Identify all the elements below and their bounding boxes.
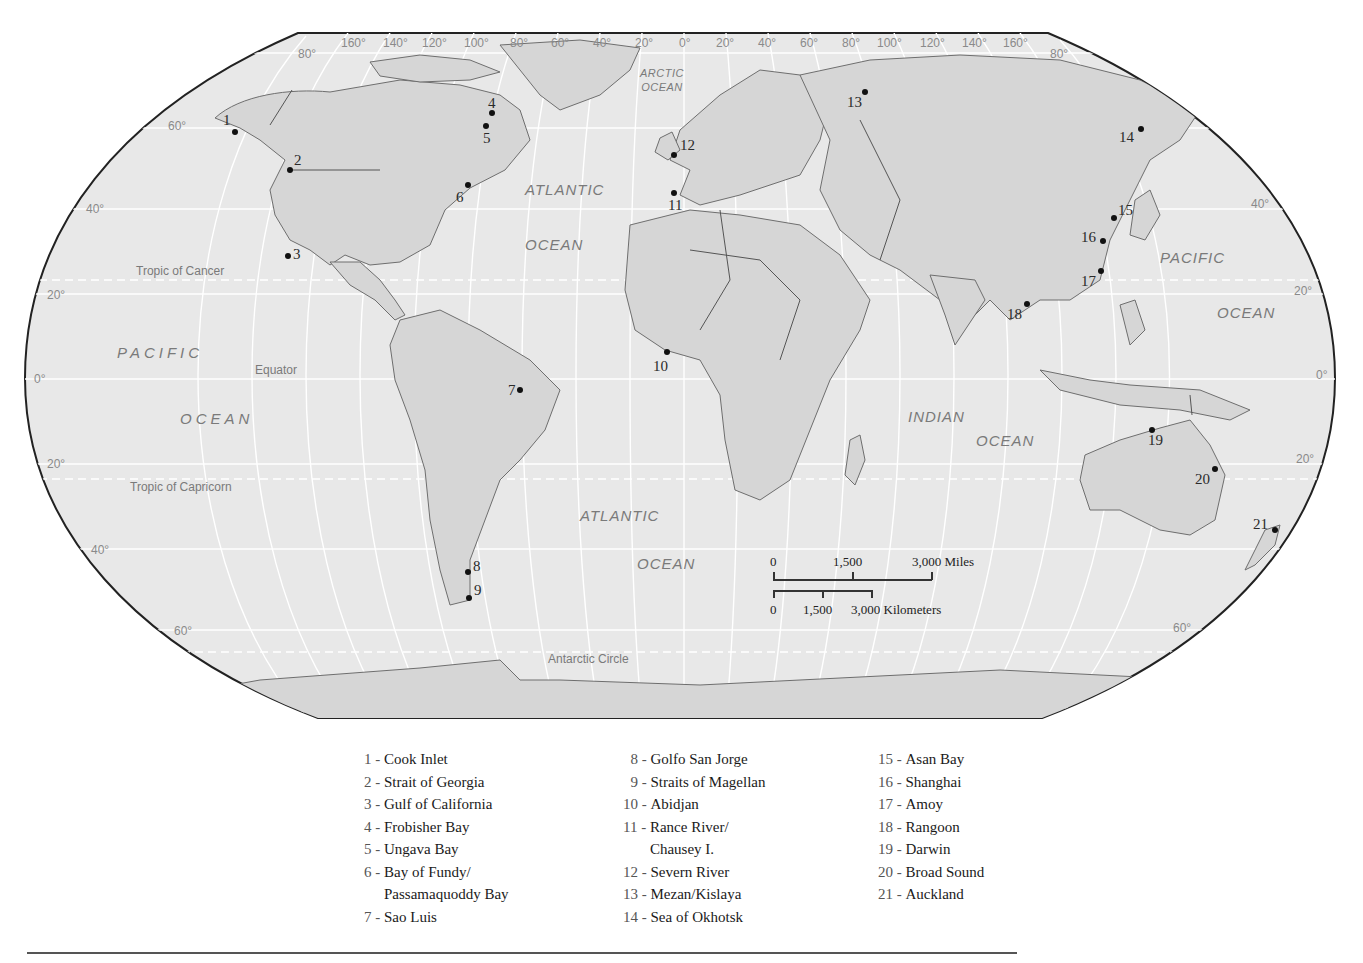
- legend-label: Severn River: [651, 861, 730, 884]
- marker-dot-15: [1111, 215, 1117, 221]
- lon-label: 140°: [383, 36, 408, 50]
- marker-dot-11: [671, 190, 677, 196]
- lon-label: 120°: [422, 36, 447, 50]
- map-graphic: [0, 0, 1363, 740]
- marker-label-2: 2: [294, 152, 302, 169]
- indian-ocean-label-2: OCEAN: [976, 432, 1034, 449]
- lat-label: 40°: [91, 543, 109, 557]
- marker-label-11: 11: [668, 197, 682, 214]
- legend-item: 5 - Ungava Bay: [364, 838, 509, 861]
- legend-number: 6 -: [364, 861, 384, 884]
- marker-label-6: 6: [456, 189, 464, 206]
- legend-label: Sea of Okhotsk: [651, 906, 744, 929]
- legend-item: 9 - Straits of Magellan: [623, 771, 765, 794]
- scale-tick: [822, 590, 824, 598]
- marker-label-19: 19: [1148, 432, 1163, 449]
- marker-label-10: 10: [653, 358, 668, 375]
- legend-number: 2 -: [364, 771, 384, 794]
- marker-label-13: 13: [847, 94, 862, 111]
- scale-km-1500: 1,500: [803, 602, 832, 618]
- legend-label: Bay of Fundy/: [384, 861, 471, 884]
- legend-label: Sao Luis: [384, 906, 437, 929]
- legend-item: 19 - Darwin: [878, 838, 984, 861]
- legend-number: 8 -: [623, 748, 651, 771]
- legend-number: 17 -: [878, 793, 906, 816]
- atlantic-ocean-south-label-2: OCEAN: [637, 555, 695, 572]
- lon-label: 0°: [679, 36, 690, 50]
- lon-label: 100°: [464, 36, 489, 50]
- pacific-ocean-west-label-1: PACIFIC: [117, 344, 203, 361]
- legend-label: Mezan/Kislaya: [651, 883, 742, 906]
- legend-number: 9 -: [623, 771, 651, 794]
- scale-tick: [931, 572, 933, 580]
- bottom-divider: [27, 952, 1017, 954]
- lat-label: 60°: [174, 624, 192, 638]
- scale-tick: [773, 572, 775, 580]
- legend-number: 20 -: [878, 861, 906, 884]
- legend-label: Straits of Magellan: [651, 771, 766, 794]
- legend-number: 14 -: [623, 906, 651, 929]
- legend-item: 3 - Gulf of California: [364, 793, 509, 816]
- scale-tick: [871, 590, 873, 598]
- atlantic-ocean-north-label-2: OCEAN: [525, 236, 583, 253]
- legend-label: Golfo San Jorge: [651, 748, 748, 771]
- legend-number: 5 -: [364, 838, 384, 861]
- legend-number: 11 -: [623, 816, 650, 839]
- marker-dot-16: [1100, 238, 1106, 244]
- marker-dot-20: [1212, 466, 1218, 472]
- legend-item: 11 - Rance River/: [623, 816, 765, 839]
- legend-label: Frobisher Bay: [384, 816, 469, 839]
- marker-label-16: 16: [1081, 229, 1096, 246]
- lon-label: 20°: [716, 36, 734, 50]
- legend-column-2: 8 - Golfo San Jorge 9 - Straits of Magel…: [623, 748, 765, 928]
- lat-label: 40°: [86, 202, 104, 216]
- legend-number: 4 -: [364, 816, 384, 839]
- world-map: 160° 140° 120° 100° 80° 60° 40° 20° 0° 2…: [0, 0, 1363, 740]
- scale-miles-0: 0: [770, 554, 777, 570]
- lon-label: 80°: [842, 36, 860, 50]
- marker-label-3: 3: [293, 246, 301, 263]
- legend-label: Asan Bay: [906, 748, 965, 771]
- legend-column-1: 1 - Cook Inlet2 - Strait of Georgia3 - G…: [364, 748, 509, 928]
- legend-item: 10 - Abidjan: [623, 793, 765, 816]
- lon-label: 140°: [962, 36, 987, 50]
- lat-label: 20°: [47, 288, 65, 302]
- marker-label-17: 17: [1081, 273, 1096, 290]
- antarctic-circle-label: Antarctic Circle: [548, 652, 629, 666]
- scale-miles-1500: 1,500: [833, 554, 862, 570]
- lat-label: 40°: [1251, 197, 1269, 211]
- marker-dot-10: [664, 349, 670, 355]
- legend-label-continuation: Passamaquoddy Bay: [384, 883, 509, 906]
- lon-label: 80°: [510, 36, 528, 50]
- legend-item: 14 - Sea of Okhotsk: [623, 906, 765, 929]
- legend-item: 7 - Sao Luis: [364, 906, 509, 929]
- legend-label: Amoy: [906, 793, 944, 816]
- legend-number: 19 -: [878, 838, 906, 861]
- legend-column-3: 15 - Asan Bay16 - Shanghai17 - Amoy18 - …: [878, 748, 984, 906]
- legend-label: Ungava Bay: [384, 838, 459, 861]
- lon-label: 120°: [920, 36, 945, 50]
- legend-label-continuation: Chausey I.: [650, 838, 714, 861]
- lon-label: 60°: [800, 36, 818, 50]
- marker-dot-1: [232, 129, 238, 135]
- tropic-of-cancer-label: Tropic of Cancer: [136, 264, 224, 278]
- legend-label: Gulf of California: [384, 793, 492, 816]
- legend-item-continuation: 6 - Passamaquoddy Bay: [364, 883, 509, 906]
- marker-label-21: 21: [1253, 516, 1268, 533]
- marker-label-4: 4: [488, 95, 496, 112]
- marker-label-9: 9: [474, 582, 482, 599]
- marker-label-12: 12: [680, 137, 695, 154]
- equator-label: Equator: [255, 363, 297, 377]
- lon-label: 160°: [341, 36, 366, 50]
- marker-dot-18: [1024, 301, 1030, 307]
- legend-item: 4 - Frobisher Bay: [364, 816, 509, 839]
- marker-dot-8: [465, 569, 471, 575]
- lat-label: 20°: [1294, 284, 1312, 298]
- marker-label-5: 5: [483, 130, 491, 147]
- legend-item: 1 - Cook Inlet: [364, 748, 509, 771]
- legend-number: 16 -: [878, 771, 906, 794]
- scale-tick: [852, 572, 854, 580]
- marker-dot-17: [1098, 268, 1104, 274]
- lat-label: 0°: [1316, 368, 1327, 382]
- lon-label: 160°: [1003, 36, 1028, 50]
